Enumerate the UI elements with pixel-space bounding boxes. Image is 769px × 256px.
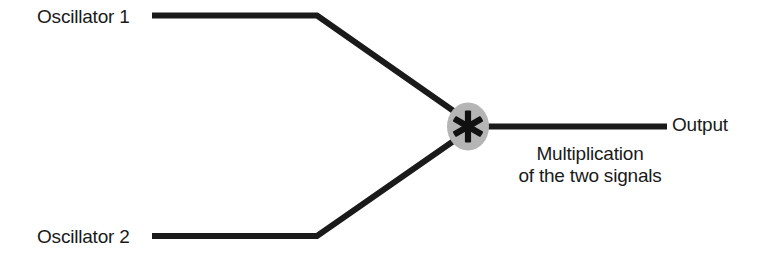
oscillator-2-path (152, 140, 455, 236)
oscillator-1-label: Oscillator 1 (37, 6, 130, 28)
multiplier-caption: Multiplication of the two signals (500, 143, 680, 187)
signal-paths (152, 16, 667, 237)
oscillator-1-path (152, 16, 455, 113)
diagram-canvas (0, 0, 769, 256)
oscillator-2-label: Oscillator 2 (37, 226, 130, 248)
multiplier-caption-line-1: Multiplication (500, 143, 680, 165)
output-label: Output (672, 114, 728, 136)
multiplier-caption-line-2: of the two signals (500, 165, 680, 187)
multiplier-node (447, 103, 489, 151)
signal-flow-diagram: Oscillator 1 Oscillator 2 Output Multipl… (0, 0, 769, 256)
